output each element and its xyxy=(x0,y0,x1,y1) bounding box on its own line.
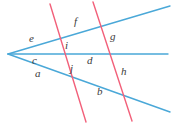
angle-label-h: h xyxy=(121,66,127,77)
angle-label-d: d xyxy=(87,55,93,66)
angle-label-a: a xyxy=(35,68,41,79)
angle-label-f: f xyxy=(74,16,77,27)
angle-label-j: j xyxy=(70,63,73,74)
angle-label-b: b xyxy=(97,86,103,97)
angle-label-i: i xyxy=(65,40,68,51)
geometry-canvas xyxy=(0,0,171,127)
angle-label-g: g xyxy=(110,31,116,42)
upper-ray xyxy=(8,6,170,54)
angle-label-e: e xyxy=(29,33,34,44)
left-transversal xyxy=(50,4,86,122)
right-transversal xyxy=(93,2,132,121)
geometry-diagram: e f g i c d j a h b xyxy=(0,0,171,127)
angle-label-c: c xyxy=(32,55,37,66)
